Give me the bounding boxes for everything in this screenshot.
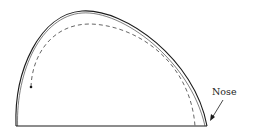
outer-profile — [16, 11, 207, 126]
diagram-canvas: Nose — [0, 0, 255, 139]
start-dot — [30, 86, 33, 89]
nose-label: Nose — [212, 86, 237, 97]
inner-dashed-path — [31, 24, 195, 126]
nose-pointer-line — [212, 100, 223, 118]
